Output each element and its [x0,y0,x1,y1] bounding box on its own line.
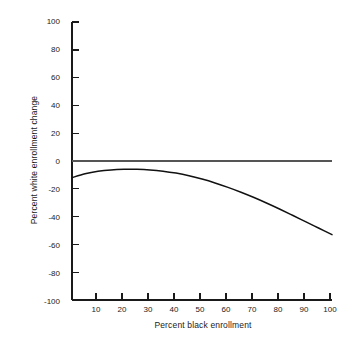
enrollment-change-curve [72,169,332,234]
y-tick-label: 20 [30,130,60,138]
x-axis-title: Percent black enrollment [72,320,334,330]
chart-figure: Percent white enrollment change Percent … [0,0,356,346]
y-tick-label: -20 [30,186,60,194]
y-tick-label: -60 [30,242,60,250]
y-tick-label: -80 [30,270,60,278]
x-tick-label: 100 [318,306,342,314]
y-tick-label: 100 [30,18,60,26]
x-tick-label: 20 [110,306,134,314]
y-tick-label: -40 [30,214,60,222]
x-tick-label: 30 [136,306,160,314]
x-tick-label: 10 [84,306,108,314]
x-tick-marks [96,293,330,300]
y-tick-label: -100 [30,298,60,306]
y-tick-label: 40 [30,102,60,110]
x-tick-label: 40 [162,306,186,314]
y-tick-label: 80 [30,46,60,54]
y-tick-label: 0 [30,158,60,166]
y-tick-label: 60 [30,74,60,82]
x-tick-label: 70 [240,306,264,314]
x-tick-label: 80 [266,306,290,314]
x-tick-label: 90 [292,306,316,314]
x-tick-label: 60 [214,306,238,314]
x-tick-label: 50 [188,306,212,314]
